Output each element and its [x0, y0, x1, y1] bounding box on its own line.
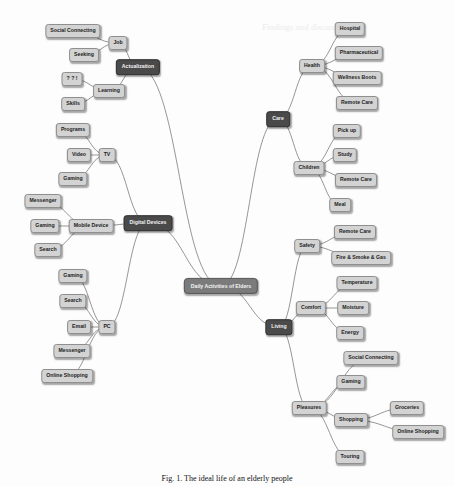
node-messenger-1: Messenger [24, 194, 61, 208]
node-gaming-tv: Gaming [58, 172, 87, 186]
node-social-connecting-1: Social Connecting [45, 24, 100, 38]
node-safety: Safety [294, 239, 320, 253]
node-remote-care-3: Remote Care [334, 225, 376, 239]
node-actualization: Actualization [116, 59, 160, 75]
connector-digital_devices [148, 223, 221, 286]
mind-map-canvas: Findings and discussion Daily Activities… [0, 0, 454, 486]
figure-caption: Fig. 1. The ideal life of an elderly peo… [0, 474, 454, 483]
node-children: Children [293, 161, 324, 175]
node-moisture: Moisture [337, 301, 369, 315]
node-gaming-mobile: Gaming [30, 219, 59, 233]
node-comfort: Comfort [296, 301, 326, 315]
node-pc: PC [98, 320, 115, 334]
node-remote-care-2: Remote Care [335, 173, 377, 187]
node-social-connecting-2: Social Connecting [343, 351, 398, 365]
node-care: Care [266, 111, 290, 127]
node-learning: Learning [93, 84, 125, 98]
node-living: Living [265, 319, 292, 335]
node-search-1: Search [34, 243, 61, 257]
node-unreadable: ? ? ! [62, 72, 83, 86]
node-health: Health [299, 59, 325, 73]
connector-pleasures [279, 327, 309, 408]
node-search-2: Search [59, 294, 86, 308]
node-temperature: Temperature [336, 276, 377, 290]
node-touring: Touring [336, 450, 365, 464]
node-fire-smoke-gas: Fire & Smoke & Gas [331, 251, 391, 265]
node-job: Job [108, 36, 127, 50]
node-meal: Meal [329, 198, 351, 212]
node-online-shopping-2: Online Shopping [392, 425, 444, 439]
node-gaming-living: Gaming [336, 375, 365, 389]
node-shopping: Shopping [334, 413, 368, 427]
node-seeking: Seeking [69, 48, 99, 62]
node-hospital: Hospital [335, 22, 365, 36]
connector-pc [107, 223, 148, 327]
node-groceries: Groceries [390, 401, 424, 415]
node-mobile-device: Mobile Device [69, 219, 114, 233]
node-study: Study [333, 148, 357, 162]
node-skills: Skills [61, 97, 85, 111]
connector-care [221, 119, 278, 286]
connector-tv [107, 155, 148, 223]
node-wellness-boots: Wellness Boots [333, 71, 382, 85]
node-gaming-pc: Gaming [58, 269, 87, 283]
node-pick-up: Pick up [333, 124, 361, 138]
node-tv: TV [99, 148, 116, 162]
node-energy: Energy [336, 326, 364, 340]
node-programs: Programs [56, 123, 90, 137]
node-video: Video [67, 148, 91, 162]
node-email: Email [67, 320, 91, 334]
node-digital-devices: Digital Devices [124, 215, 173, 231]
connector-actualization [138, 67, 221, 286]
node-online-shopping-1: Online Shopping [41, 369, 93, 383]
node-messenger-2: Messenger [53, 344, 90, 358]
node-root: Daily Activities of Elders [184, 278, 258, 294]
node-pharmaceutical: Pharmaceutical [335, 46, 383, 60]
node-remote-care-1: Remote Care [336, 96, 378, 110]
node-pleasures: Pleasures [292, 401, 327, 415]
